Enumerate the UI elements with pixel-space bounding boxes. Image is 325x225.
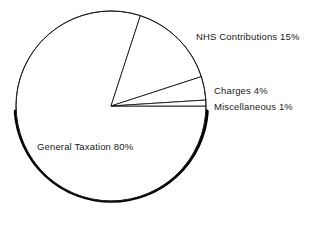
pie-chart-figure: NHS Contributions 15% Charges 4% Miscell…	[0, 0, 325, 225]
pie-label-nhs-contributions: NHS Contributions 15%	[196, 31, 299, 42]
pie-label-miscellaneous: Miscellaneous 1%	[214, 101, 293, 112]
pie-label-charges: Charges 4%	[214, 85, 268, 96]
pie-label-general-taxation: General Taxation 80%	[37, 141, 133, 152]
